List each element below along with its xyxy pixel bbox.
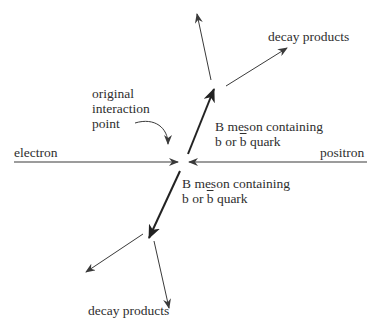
electron-label: electron bbox=[14, 145, 57, 160]
lower-decay-products-label: decay products bbox=[88, 303, 169, 318]
upper-decay-arrow-2 bbox=[226, 48, 287, 86]
interaction-point-line-2: interaction bbox=[92, 101, 150, 116]
lower-decay-arrow-2 bbox=[154, 241, 169, 308]
upper-decay-arrow-1 bbox=[197, 14, 211, 80]
lower-b-meson-label: B meson containing b or b quark bbox=[182, 176, 290, 206]
upper-b-meson-arrow bbox=[188, 89, 214, 154]
interaction-point-label: original interaction point bbox=[92, 86, 150, 131]
lower-b-meson-arrow bbox=[149, 171, 180, 238]
interaction-point-line-3: point bbox=[92, 116, 150, 131]
lower-b-meson-line-1: B meson containing bbox=[182, 176, 290, 191]
lower-b-meson-line-2: b or b quark bbox=[182, 191, 290, 206]
b-bar-symbol: b bbox=[207, 191, 214, 206]
lower-decay-arrow-1 bbox=[86, 234, 143, 272]
interaction-point-line-1: original bbox=[92, 86, 150, 101]
b-bar-symbol: b bbox=[240, 134, 247, 149]
upper-b-meson-line-1: B meson containing bbox=[215, 119, 323, 134]
upper-decay-products-label: decay products bbox=[268, 29, 349, 44]
upper-b-meson-label: B meson containing b or b quark bbox=[215, 119, 323, 149]
positron-label: positron bbox=[320, 145, 364, 160]
upper-b-meson-line-2: b or b quark bbox=[215, 134, 323, 149]
diagram-canvas bbox=[0, 0, 380, 327]
